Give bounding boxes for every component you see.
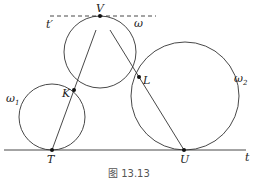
point-T [50,148,54,152]
label-V: V [96,2,105,15]
label-T: T [47,153,56,166]
label-omega1: ω1 [6,92,19,107]
figure-caption: 图 13.13 [108,168,150,179]
label-omega2: ω2 [234,72,248,87]
label-U: U [180,153,190,166]
line-UL [110,30,184,150]
label-t: t [245,151,250,164]
label-L: L [142,74,150,87]
geometry-diagram: V K L T U t t′ ω ω1 ω2 图 13.13 [0,0,254,180]
point-L [137,75,141,79]
point-U [182,148,186,152]
point-K [72,88,76,92]
circle-omega2 [131,42,239,150]
circle-omega1 [19,84,85,150]
label-omega: ω [134,17,143,30]
label-t-prime: t′ [46,18,53,31]
label-K: K [61,87,71,100]
circle-omega [64,16,136,88]
